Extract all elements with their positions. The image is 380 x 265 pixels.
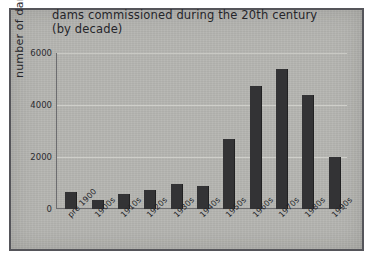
bar-slot <box>216 53 242 209</box>
chart-title-line-1: dams commissioned during the 20th centur… <box>52 8 352 22</box>
y-tick-label-2000: 2000 <box>30 152 52 162</box>
bar <box>302 95 314 209</box>
y-tick-label-6000: 6000 <box>30 48 52 58</box>
bar-series <box>58 53 348 209</box>
bar <box>329 157 341 209</box>
x-axis-tick-labels: pre 19001900s1910s1920s1930s1940s1950s19… <box>57 211 347 255</box>
bar-slot <box>58 53 84 209</box>
bar-slot <box>111 53 137 209</box>
chart-title-line-2: (by decade) <box>52 22 352 36</box>
bar-slot <box>269 53 295 209</box>
y-tick-label-0: 0 <box>47 204 52 214</box>
bar <box>223 139 235 209</box>
chart-page: dams commissioned during the 20th centur… <box>0 0 380 265</box>
y-axis-label: number of dams <box>13 0 26 78</box>
bar-slot <box>137 53 163 209</box>
bar-slot <box>243 53 269 209</box>
y-tick-label-4000: 4000 <box>30 100 52 110</box>
bar-slot <box>322 53 348 209</box>
bar-slot <box>190 53 216 209</box>
plot-area: 6000 4000 2000 0 <box>56 53 347 209</box>
bar-slot <box>295 53 321 209</box>
chart-title: dams commissioned during the 20th centur… <box>52 8 352 36</box>
bar-slot <box>84 53 110 209</box>
bar <box>250 86 262 210</box>
bar <box>276 69 288 209</box>
bar-slot <box>163 53 189 209</box>
